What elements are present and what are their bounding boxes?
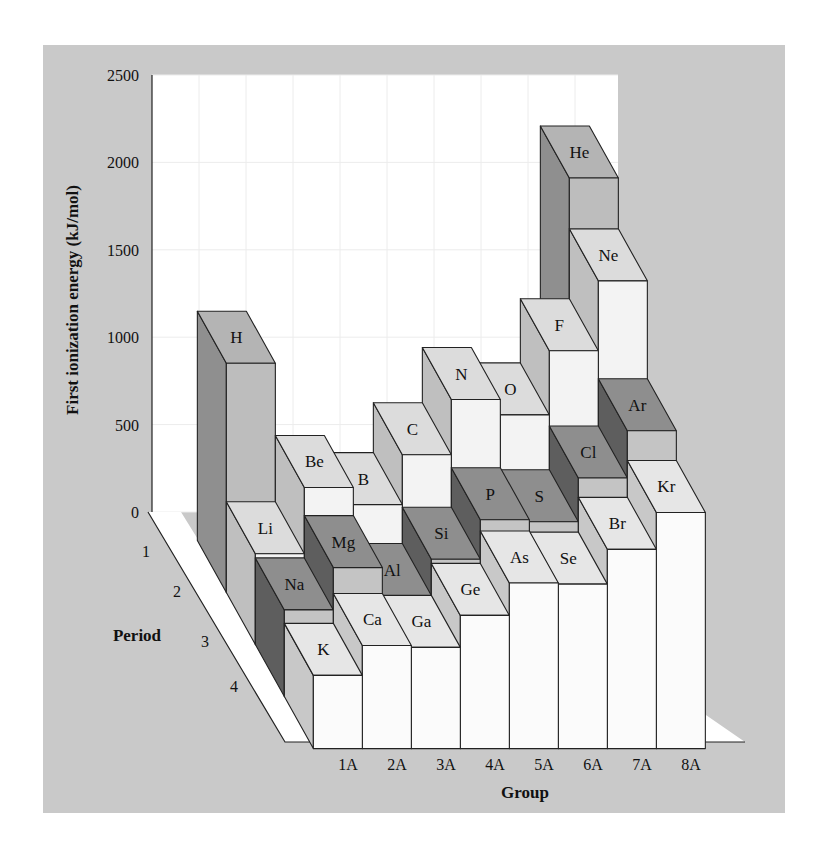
bar-label: Se <box>560 549 577 568</box>
bar-label: C <box>407 420 418 439</box>
bar-label: Ge <box>460 580 480 599</box>
group-tick-label: 8A <box>681 756 701 773</box>
y-tick-label: 0 <box>131 504 139 521</box>
bar-label: S <box>535 487 544 506</box>
period-axis-title: Period <box>113 626 162 645</box>
bar-label: Mg <box>332 533 356 552</box>
bar-label: K <box>317 640 330 659</box>
group-tick-label: 1A <box>338 756 358 773</box>
y-tick-label: 2000 <box>107 154 139 171</box>
y-tick-label: 1000 <box>107 329 139 346</box>
period-tick-label: 1 <box>142 543 150 560</box>
group-axis-title: Group <box>501 783 549 802</box>
bar-label: As <box>510 548 529 567</box>
bar-label: Al <box>384 561 401 580</box>
group-tick-label: 4A <box>485 756 505 773</box>
bar-label: Br <box>609 514 626 533</box>
bar-label: Na <box>284 575 304 594</box>
bar-label: Be <box>305 452 324 471</box>
bar-label: He <box>569 143 589 162</box>
y-axis-title: First ionization energy (kJ/mol) <box>63 185 82 415</box>
bar-label: Li <box>258 519 273 538</box>
group-tick-label: 7A <box>632 756 652 773</box>
period-tick-label: 3 <box>201 633 209 650</box>
bar-label: P <box>486 485 495 504</box>
group-tick-label: 6A <box>583 756 603 773</box>
bar-label: Kr <box>657 477 675 496</box>
bar-label: Ar <box>628 396 646 415</box>
bar-label: Ca <box>363 610 382 629</box>
bar-label: O <box>504 380 516 399</box>
group-tick-label: 5A <box>534 756 554 773</box>
bar-label: B <box>358 470 369 489</box>
ionization-energy-3d-bar-chart: HeHNeFONCBBeLiArClSPSiAlMgNaKrBrSeAsGeGa… <box>0 0 823 852</box>
y-tick-label: 2500 <box>107 67 139 84</box>
bar-label: F <box>555 316 564 335</box>
period-tick-label: 4 <box>230 678 238 695</box>
bar-label: N <box>455 365 467 384</box>
bar-label: Ga <box>411 612 431 631</box>
y-tick-label: 500 <box>115 417 139 434</box>
bar-label: Ne <box>598 246 618 265</box>
group-tick-label: 2A <box>387 756 407 773</box>
bar-label: Si <box>434 524 448 543</box>
bar-label: H <box>230 328 242 347</box>
group-tick-label: 3A <box>436 756 456 773</box>
y-tick-label: 1500 <box>107 242 139 259</box>
period-tick-label: 2 <box>173 583 181 600</box>
bar-label: Cl <box>580 443 596 462</box>
